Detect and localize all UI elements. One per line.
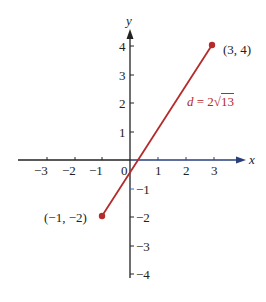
y-tick-label: −1: [136, 183, 150, 196]
y-tick-label: 3: [119, 69, 126, 82]
point-a-label: (3, 4): [223, 43, 251, 56]
x-tick-label: 1: [155, 164, 162, 177]
sqrt-icon: √: [214, 94, 221, 109]
point-a-marker: [209, 42, 215, 48]
distance-radicand: 13: [221, 93, 234, 109]
x-tick-label: −1: [89, 164, 103, 177]
x-tick-label: −3: [34, 164, 48, 177]
distance-annotation: d = 2√13: [187, 95, 234, 108]
x-tick-label: 3: [211, 164, 218, 177]
distance-d: d: [187, 94, 194, 109]
y-tick-label: 1: [119, 126, 126, 139]
y-tick-label: 2: [119, 97, 126, 110]
x-tick-label: 2: [183, 164, 190, 177]
y-tick-label: 4: [119, 40, 126, 53]
point-b-label: (−1, −2): [44, 211, 87, 224]
point-b-marker: [99, 213, 105, 219]
y-axis-arrow-icon: [127, 29, 134, 39]
y-tick-label: −2: [136, 211, 150, 224]
x-axis-arrow-icon: [236, 157, 246, 164]
y-tick-label: −4: [136, 268, 150, 281]
y-tick-label: −3: [136, 240, 150, 253]
y-axis-label: y: [126, 14, 132, 27]
distance-eq: =: [197, 94, 204, 109]
x-axis-label: x: [249, 153, 255, 166]
x-tick-label: −2: [62, 164, 76, 177]
origin-label: 0: [121, 164, 128, 177]
